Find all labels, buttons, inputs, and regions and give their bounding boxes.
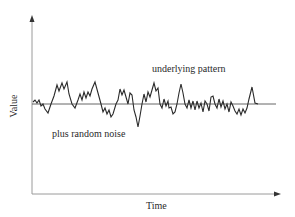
noise-diagram: underlying pattern plus random noise Tim… bbox=[0, 0, 295, 217]
y-axis-arrow-icon bbox=[30, 15, 35, 22]
noise-series-line bbox=[33, 82, 258, 127]
x-axis-label: Time bbox=[146, 201, 167, 211]
random-noise-label: plus random noise bbox=[52, 129, 125, 139]
diagram-canvas bbox=[0, 0, 295, 217]
x-axis-arrow-icon bbox=[274, 192, 281, 197]
y-axis-label: Value bbox=[9, 95, 19, 118]
underlying-pattern-label: underlying pattern bbox=[152, 64, 226, 74]
